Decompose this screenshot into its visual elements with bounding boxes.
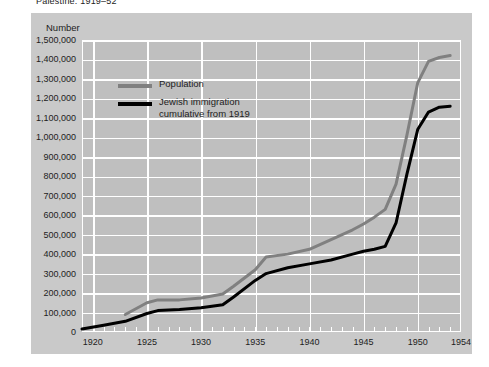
series-line	[82, 106, 450, 329]
chart-figure: Palestine: 1919–52 Number 0100,000200,00…	[0, 0, 489, 367]
legend-swatch-immigration	[118, 102, 152, 106]
legend-label-immigration-line2: cumulative from 1919	[159, 108, 250, 119]
legend-swatch-population	[118, 84, 152, 88]
series-line	[125, 56, 450, 315]
data-lines	[0, 0, 489, 367]
legend-label-immigration: Jewish immigration	[159, 96, 240, 107]
legend-label-population: Population	[159, 78, 204, 89]
